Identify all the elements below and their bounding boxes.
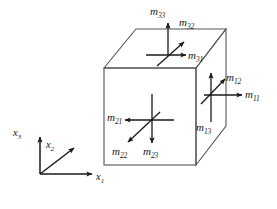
m12-arrow — [201, 79, 225, 104]
x2-axis-arrow — [40, 148, 74, 174]
m32-arrow — [157, 42, 184, 66]
label-x2-axis: x2 — [46, 140, 54, 151]
couple-stress-cube-figure: m33 m32 m31 m21 m22 m23 m12 m11 m13 x3 x… — [0, 0, 277, 209]
label-m31: m31 — [188, 50, 203, 61]
label-m33: m33 — [150, 6, 165, 17]
label-m21: m21 — [107, 112, 122, 123]
cube-top-face — [104, 29, 226, 68]
label-m11: m11 — [245, 89, 260, 100]
label-m22: m22 — [112, 146, 127, 157]
label-m32: m32 — [179, 17, 194, 28]
label-m13: m13 — [196, 122, 211, 133]
front-face-arrow-group — [125, 94, 174, 143]
label-x3-axis: x3 — [13, 128, 21, 139]
label-m12: m12 — [226, 72, 241, 83]
m22-arrow — [128, 112, 160, 142]
figure-canvas — [0, 0, 277, 209]
label-m23: m23 — [143, 146, 158, 157]
label-x1-axis: x1 — [96, 172, 104, 183]
